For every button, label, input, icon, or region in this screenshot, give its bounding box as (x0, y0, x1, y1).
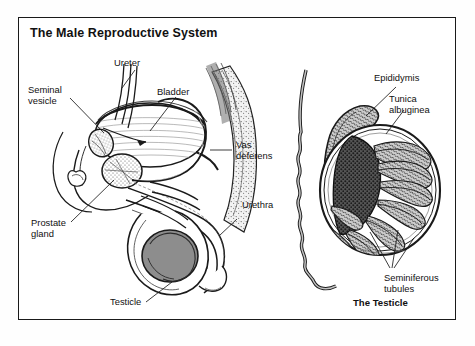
label-prostate-gland-line1: Prostate (31, 217, 66, 228)
label-tunica-albuginea: Tunicaalbuginea (389, 93, 430, 115)
label-vas-deferens: Vasdeferens (236, 139, 272, 161)
label-seminiferous-tubules-line1: Seminiferous (384, 272, 439, 283)
label-seminal-vesicle-line2: vesicle (28, 95, 57, 106)
label-prostate-gland: Prostategland (31, 217, 66, 239)
label-vas-deferens-line2: deferens (236, 150, 272, 161)
label-seminal-vesicle: Seminalvesicle (28, 84, 62, 106)
label-prostate-gland-line2: gland (31, 228, 54, 239)
label-ureter: Ureter (114, 57, 140, 68)
label-urethra: Urethra (242, 199, 273, 210)
label-epididymis: Epididymis (374, 72, 419, 83)
scrotum-testicle (128, 211, 209, 295)
left-panel-art (53, 62, 256, 295)
label-tunica-albuginea-line2: albuginea (389, 104, 430, 115)
leader-seminal-vesicle (70, 98, 104, 133)
label-tunica-albuginea-line1: Tunica (389, 93, 417, 104)
label-testicle: Testicle (110, 296, 141, 307)
label-bladder: Bladder (157, 86, 189, 97)
label-vas-deferens-line1: Vas (236, 139, 251, 150)
label-seminiferous-tubules-line2: tubules (384, 283, 414, 294)
prostate-gland-organ (102, 154, 142, 188)
panel-caption-testicle: The Testicle (353, 297, 408, 308)
label-seminal-vesicle-line1: Seminal (28, 84, 62, 95)
label-seminiferous-tubules: Seminiferoustubules (384, 272, 439, 294)
anatomy-figure: The Male Reproductive System (0, 0, 475, 346)
